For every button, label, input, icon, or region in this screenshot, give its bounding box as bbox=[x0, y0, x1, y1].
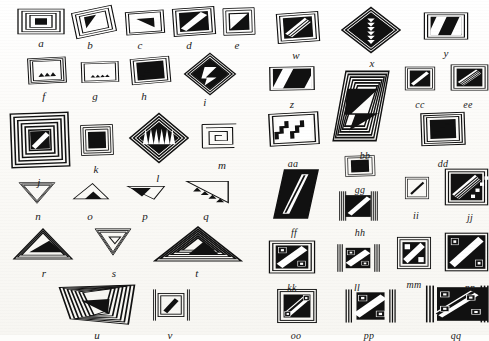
motif-figure-w bbox=[275, 11, 321, 45]
motif-figure-dd bbox=[419, 111, 466, 147]
motif-figure-jj bbox=[444, 168, 489, 206]
motif-figure-cc bbox=[404, 66, 436, 91]
figure-label-y: y bbox=[443, 48, 448, 59]
motif-figure-nn bbox=[444, 232, 489, 272]
motif-figure-c bbox=[123, 9, 167, 37]
motif-figure-e bbox=[222, 6, 257, 36]
figure-label-oo: oo bbox=[291, 330, 301, 341]
figure-label-h: h bbox=[141, 91, 147, 102]
motif-figure-v bbox=[152, 288, 190, 322]
motif-figure-kk bbox=[268, 240, 316, 274]
figure-label-p: p bbox=[142, 211, 148, 222]
motif-figure-g bbox=[80, 60, 121, 83]
figure-label-x: x bbox=[369, 58, 374, 69]
motif-figure-r bbox=[12, 228, 74, 260]
motif-figure-aa bbox=[267, 111, 321, 148]
figure-label-mm: mm bbox=[407, 279, 422, 290]
motif-figure-ee bbox=[450, 64, 489, 91]
figure-label-o: o bbox=[87, 211, 93, 222]
figure-label-ff: ff bbox=[291, 227, 297, 238]
figure-label-a: a bbox=[38, 38, 44, 49]
motif-figure-z bbox=[268, 66, 316, 92]
motif-figure-d bbox=[171, 6, 217, 38]
motif-figure-i bbox=[183, 52, 237, 96]
figure-label-r: r bbox=[42, 268, 46, 279]
figure-label-gg: gg bbox=[355, 184, 365, 195]
motif-figure-b bbox=[70, 4, 119, 41]
motif-figure-h bbox=[129, 55, 172, 85]
figure-label-cc: cc bbox=[415, 99, 424, 110]
figure-label-ee: ee bbox=[463, 99, 472, 110]
figure-label-pp: pp bbox=[364, 330, 374, 341]
figure-label-c: c bbox=[137, 40, 142, 51]
figure-label-jj: jj bbox=[467, 212, 473, 223]
motif-figure-k bbox=[79, 123, 114, 156]
figure-label-q: q bbox=[203, 211, 209, 222]
motif-figure-y bbox=[423, 12, 469, 40]
motif-figure-o bbox=[72, 180, 110, 202]
figure-label-w: w bbox=[292, 50, 300, 61]
figure-label-u: u bbox=[94, 330, 100, 341]
motif-figure-bb bbox=[332, 70, 390, 142]
motif-figure-p bbox=[126, 182, 166, 202]
figure-label-n: n bbox=[35, 211, 41, 222]
figure-label-d: d bbox=[186, 40, 192, 51]
figure-label-s: s bbox=[112, 268, 116, 279]
motif-figure-ff bbox=[272, 168, 320, 220]
motif-figure-f bbox=[26, 56, 67, 85]
motif-figure-ii bbox=[404, 176, 430, 200]
figure-label-i: i bbox=[203, 97, 206, 108]
motif-figure-q bbox=[185, 178, 230, 206]
figure-label-dd: dd bbox=[438, 158, 448, 169]
figure-label-g: g bbox=[92, 91, 98, 102]
figure-label-k: k bbox=[93, 164, 98, 175]
figure-label-j: j bbox=[37, 177, 40, 188]
motif-figure-oo bbox=[276, 288, 318, 324]
motif-figure-a bbox=[16, 8, 66, 35]
figure-label-e: e bbox=[234, 40, 239, 51]
figure-label-hh: hh bbox=[355, 227, 365, 238]
figure-label-t: t bbox=[195, 268, 198, 279]
motif-figure-qq bbox=[424, 284, 489, 324]
motif-figure-s bbox=[94, 228, 132, 256]
motif-figure-l bbox=[128, 112, 190, 164]
figure-label-m: m bbox=[218, 160, 226, 171]
figure-label-l: l bbox=[156, 173, 159, 184]
figure-label-v: v bbox=[167, 330, 172, 341]
figure-label-ii: ii bbox=[413, 210, 419, 221]
motif-figure-pp bbox=[344, 288, 396, 324]
figure-label-qq: qq bbox=[451, 330, 461, 341]
motif-figure-u bbox=[58, 283, 136, 325]
motif-figure-mm bbox=[396, 236, 432, 270]
figure-label-b: b bbox=[87, 40, 93, 51]
figure-label-ll: ll bbox=[354, 282, 360, 293]
figure-label-aa: aa bbox=[288, 158, 298, 169]
figure-label-nn: nn bbox=[465, 282, 475, 293]
motif-figure-j bbox=[9, 111, 71, 169]
figure-label-kk: kk bbox=[287, 282, 296, 293]
motif-figure-t bbox=[152, 226, 244, 262]
motif-figure-m bbox=[200, 122, 238, 151]
figure-label-z: z bbox=[290, 99, 294, 110]
motif-figure-x bbox=[340, 6, 402, 54]
motif-figure-ll bbox=[336, 243, 380, 273]
figure-label-bb: bb bbox=[360, 150, 370, 161]
figure-label-f: f bbox=[42, 91, 45, 102]
